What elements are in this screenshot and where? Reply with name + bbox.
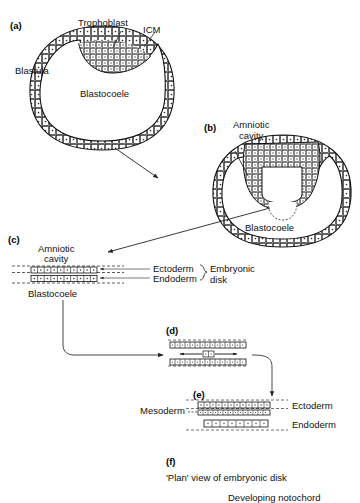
label-amniotic-cavity-b-line2: cavity [239,130,263,141]
label-endoderm-c: Endoderm [153,273,197,284]
panel-label-e: (e) [193,389,205,400]
arrow-d-to-e [252,355,272,396]
panel-d-gastrulation [168,340,248,366]
panel-label-b: (b) [204,122,216,133]
mesoderm-row-e [198,410,270,415]
brace-embryonic-disk [200,265,207,280]
panel-label-c: (c) [8,234,20,245]
label-ectoderm-e: Ectoderm [292,400,333,411]
amniotic-cavity-b [262,167,302,203]
label-endoderm-e: Endoderm [292,419,336,430]
endoderm-row-e [204,420,268,427]
label-blastocoele-a: Blastocoele [80,88,129,99]
ectoderm-row-d [170,342,246,348]
endoderm-row-c [31,276,97,282]
label-trophoblast: Trophoblast [78,17,128,28]
arrow-c-to-d [63,300,163,355]
label-blastocoele-c: Blastocoele [28,288,77,299]
caption-plan-view: 'Plan' view of embryonic disk [166,472,287,483]
panel-e-trilaminar-disk [186,400,288,430]
panel-label-a: (a) [10,20,22,31]
panel-label-f: (f) [166,456,176,467]
label-icm: ICM [143,24,160,35]
panel-label-d: (d) [166,325,178,336]
label-embryonic-disk-line2: disk [210,274,227,285]
ectoderm-row-e [198,402,270,408]
label-blastula: Blastula [15,65,49,76]
label-amniotic-cavity-b-line1: Amniotic [233,119,269,130]
ectoderm-row-c [31,267,97,273]
label-mesoderm-e: Mesoderm [140,405,185,416]
label-embryonic-disk-line1: Embryonic [210,263,255,274]
label-blastocoele-b: Blastocoele [245,222,294,233]
label-developing-notochord: Developing notochord [228,492,320,503]
label-amniotic-cavity-c-line2: cavity [44,253,68,264]
arrow-a-to-b [115,148,158,178]
mesoderm-migration-arrows [180,351,237,357]
endoderm-row-d [170,359,246,365]
